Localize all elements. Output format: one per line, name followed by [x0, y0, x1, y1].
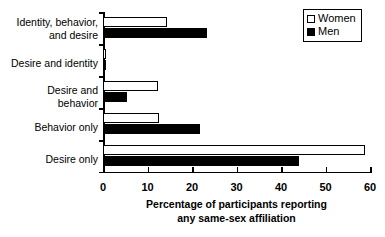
- category-label-desire-only: Desire only: [0, 153, 98, 166]
- bar-group-behavior-only: [103, 108, 370, 140]
- x-tick-label-50: 50: [319, 181, 331, 193]
- bar-men: [103, 28, 207, 38]
- category-label-desire-and-identity: Desire and identity: [0, 57, 98, 70]
- legend-label-women: Women: [318, 12, 356, 25]
- bar-men: [103, 124, 200, 134]
- bar-chart: Identity, behavior, and desire Desire an…: [0, 0, 385, 237]
- bar-men: [103, 156, 299, 166]
- x-tick-label-40: 40: [275, 181, 287, 193]
- x-tick-label-10: 10: [141, 181, 153, 193]
- bar-group-desire-and-identity: [103, 44, 370, 76]
- bar-men: [103, 92, 127, 102]
- x-tick-label-30: 30: [230, 181, 242, 193]
- x-axis-tick: [370, 167, 372, 173]
- bar-women: [103, 113, 159, 123]
- legend-item-men: Men: [307, 25, 356, 38]
- category-label-identity-behavior-desire: Identity, behavior, and desire: [0, 16, 98, 41]
- x-tick-label-0: 0: [100, 181, 106, 193]
- legend-item-women: Women: [307, 12, 356, 25]
- bar-group-desire-and-behavior: [103, 76, 370, 108]
- bar-men: [103, 60, 106, 70]
- bar-women: [103, 145, 365, 155]
- bar-women: [103, 81, 158, 91]
- bar-women: [103, 17, 167, 27]
- x-axis-title: Percentage of participants reporting any…: [103, 197, 370, 225]
- bar-women: [103, 49, 106, 59]
- legend: Women Men: [303, 9, 362, 42]
- category-label-desire-and-behavior: Desire and behavior: [0, 84, 98, 109]
- legend-swatch-men-icon: [307, 28, 315, 36]
- legend-swatch-women-icon: [307, 15, 315, 23]
- x-tick-label-20: 20: [186, 181, 198, 193]
- category-label-behavior-only: Behavior only: [0, 121, 98, 134]
- x-tick-label-60: 60: [364, 181, 376, 193]
- legend-label-men: Men: [318, 25, 339, 38]
- bar-group-desire-only: [103, 140, 370, 172]
